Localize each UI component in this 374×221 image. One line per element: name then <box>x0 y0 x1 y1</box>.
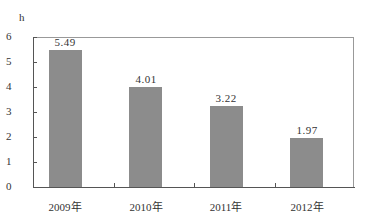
x-tick-mark <box>194 183 195 187</box>
bar-value-label: 5.49 <box>35 36 95 48</box>
x-tick-mark <box>275 183 276 187</box>
y-tick-mark <box>33 62 37 63</box>
bar-value-label: 4.01 <box>116 73 176 85</box>
x-category-label: 2012年 <box>272 198 342 214</box>
bar-2012 <box>290 138 323 187</box>
y-tick-mark <box>33 137 37 138</box>
bar-value-label: 3.22 <box>196 92 256 104</box>
y-tick-mark <box>33 162 37 163</box>
bar-value-label: 1.97 <box>277 124 337 136</box>
y-tick-label: 5 <box>6 55 24 67</box>
y-tick-label: 6 <box>6 30 24 42</box>
x-tick-mark <box>114 183 115 187</box>
y-tick-label: 3 <box>6 105 24 117</box>
y-tick-label: 2 <box>6 130 24 142</box>
y-tick-mark <box>33 112 37 113</box>
x-category-label: 2010年 <box>111 198 181 214</box>
y-axis-unit-label: h <box>19 11 25 23</box>
x-category-label: 2009年 <box>30 198 100 214</box>
y-tick-label: 0 <box>6 180 24 192</box>
y-tick-mark <box>33 187 37 188</box>
y-tick-label: 4 <box>6 80 24 92</box>
y-tick-mark <box>33 87 37 88</box>
x-axis-line <box>33 187 355 188</box>
y-tick-label: 1 <box>6 155 24 167</box>
x-category-label: 2011年 <box>191 198 261 214</box>
bar-2010 <box>129 87 162 187</box>
bar-2009 <box>49 50 82 187</box>
bar-2011 <box>210 106 243 187</box>
